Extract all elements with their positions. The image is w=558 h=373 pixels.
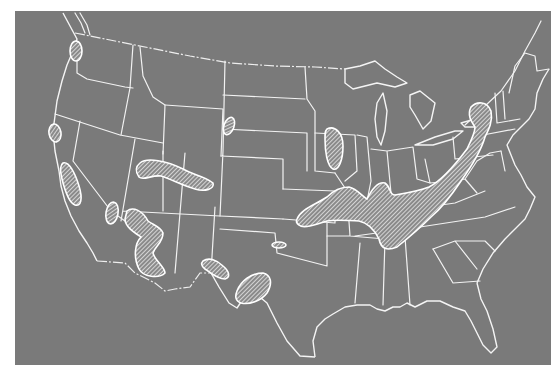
us-map bbox=[15, 11, 551, 365]
map-svg bbox=[15, 11, 551, 365]
zone-washington bbox=[70, 41, 82, 61]
zone-wisconsin-illinois bbox=[325, 128, 343, 169]
zone-oklahoma bbox=[272, 242, 286, 248]
